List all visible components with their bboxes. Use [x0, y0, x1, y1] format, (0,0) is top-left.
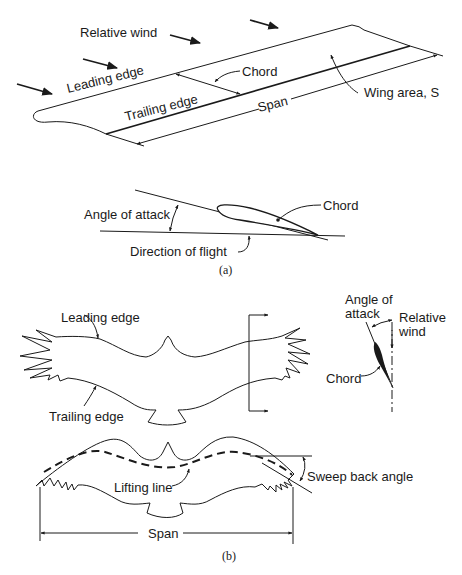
section-relative-wind-line2: wind: [398, 324, 426, 339]
leading-edge-label: Leading edge: [65, 62, 145, 96]
section-angle-of-attack-line2: attack: [345, 306, 380, 321]
wing-section-angle-of-attack: Angle of attack Relative wind Chord: [326, 292, 446, 412]
section-chord-leader: [361, 366, 380, 376]
trailing-edge-label: Trailing edge: [123, 91, 199, 124]
direction-of-flight-label: Direction of flight: [130, 244, 227, 259]
relative-wind-label: Relative wind: [80, 25, 157, 40]
bird-trailing-edge-label: Trailing edge: [49, 409, 124, 424]
angle-of-attack-label: Angle of attack: [84, 207, 170, 222]
airfoil-chord-leader: [278, 205, 321, 220]
caption-b: (b): [222, 549, 236, 563]
section-airfoil: [374, 342, 392, 387]
bird-lifting-line-view: Lifting line Sweep back angle Span (b): [36, 437, 413, 563]
caption-a: (a): [219, 263, 232, 277]
section-relative-wind-line1: Relative: [399, 310, 446, 325]
lifting-line-leader: [172, 469, 189, 486]
angle-of-attack-arc: [170, 205, 178, 231]
bird-trailing-edge-leader: [84, 386, 96, 406]
section-angle-of-attack-line1: Angle of: [345, 292, 393, 307]
bird-span-label: Span: [148, 526, 178, 541]
span-label: Span: [256, 93, 289, 115]
wing-area-label: Wing area, S: [364, 85, 439, 100]
lifting-line: [44, 451, 292, 475]
airfoil-chord-label: Chord: [323, 198, 358, 213]
sweep-angle-arc: [300, 457, 305, 481]
direction-of-flight-leader: [238, 236, 249, 252]
section-chord-label: Chord: [326, 371, 361, 386]
bird-top-view: Leading edge Trailing edge: [20, 310, 310, 425]
chord-label: Chord: [242, 64, 277, 79]
section-angle-arc: [372, 320, 392, 327]
airfoil-angle-of-attack-diagram: Angle of attack Chord Direction of fligh…: [84, 190, 358, 277]
bird-leading-edge-label: Leading edge: [61, 310, 140, 325]
airfoil-section: [217, 205, 318, 235]
wing-geometry-figure: Relative wind Leading edge Trailing edge…: [0, 0, 462, 575]
chord-leader: [215, 71, 240, 82]
bird-outline-bottom: [36, 437, 294, 518]
section-cut-marker: [249, 315, 268, 411]
sweep-back-angle-label: Sweep back angle: [307, 469, 413, 484]
wing-area-leader: [331, 55, 358, 93]
wing-3d-diagram: Relative wind Leading edge Trailing edge…: [17, 20, 443, 146]
lifting-line-label: Lifting line: [114, 480, 173, 495]
